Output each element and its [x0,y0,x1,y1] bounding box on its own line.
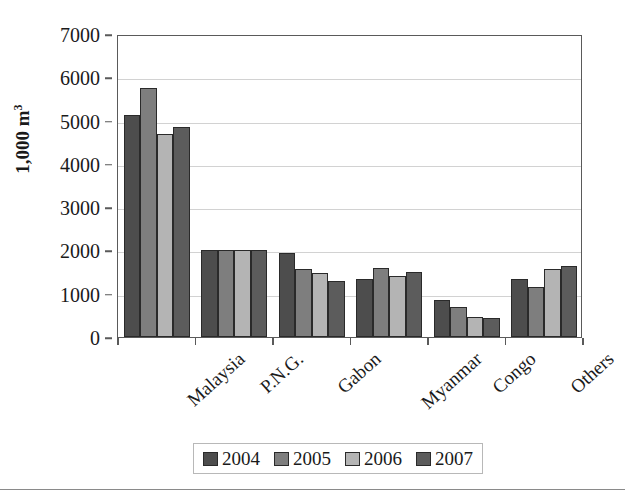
y-tick-mark [105,121,112,123]
bar-congo-2005 [450,307,467,337]
bar-gabon-2007 [328,281,345,337]
x-tick-mark [350,338,352,345]
bar-others-2006 [544,269,561,337]
chart-legend: 2004200520062007 [193,443,483,474]
bar-group-gabon [279,36,345,337]
y-tick-label: 3000 [60,198,100,218]
x-tick-label-gabon: Gabon [333,348,385,398]
bar-others-2005 [528,287,545,337]
bar-chart-figure: 1,000 m3 01000200030004000500060007000 M… [0,0,625,503]
y-tick-mark [105,34,112,36]
legend-label: 2005 [293,449,331,468]
y-tick-mark [105,207,112,209]
bar-others-2004 [511,279,528,337]
bar-malaysia-2004 [124,115,141,337]
y-tick-mark [105,337,112,339]
legend-label: 2004 [222,449,260,468]
bar-myanmar-2007 [406,272,423,337]
bar-png-2005 [218,250,235,337]
bar-gabon-2004 [279,253,296,337]
x-tick-mark [195,338,197,345]
bar-congo-2004 [434,300,451,337]
legend-swatch-icon [345,452,360,466]
bar-others-2007 [561,266,578,337]
legend-item-2004[interactable]: 2004 [203,449,260,468]
bar-group-others [511,36,577,337]
legend-label: 2007 [435,449,473,468]
bar-myanmar-2004 [356,279,373,337]
bar-group-myanmar [356,36,422,337]
y-tick-label: 7000 [60,25,100,45]
bar-malaysia-2006 [157,134,174,337]
bar-malaysia-2005 [140,88,157,337]
x-tick-mark [582,338,584,345]
y-tick-mark [105,251,112,253]
y-tick-mark [105,78,112,80]
bar-gabon-2006 [312,273,329,337]
legend-label: 2006 [364,449,402,468]
bar-myanmar-2006 [389,276,406,337]
x-tick-label-png: P.N.G. [255,348,307,398]
x-axis-ticklabels: MalaysiaP.N.G.GabonMyanmarCongoOthers [117,346,582,431]
legend-item-2005[interactable]: 2005 [274,449,331,468]
y-tick-label: 0 [90,328,100,348]
bar-png-2007 [251,250,268,337]
y-tick-label: 1000 [60,285,100,305]
legend-swatch-icon [203,452,218,466]
x-tick-label-others: Others [566,348,618,398]
y-axis: 01000200030004000500060007000 [0,35,112,338]
y-tick-label: 6000 [60,68,100,88]
legend-swatch-icon [274,452,289,466]
legend-swatch-icon [416,452,431,466]
bar-group-png [201,36,267,337]
y-tick-label: 4000 [60,155,100,175]
bar-png-2004 [201,250,218,337]
bar-gabon-2005 [295,269,312,337]
bar-group-congo [434,36,500,337]
x-axis-tickmarks [117,338,582,346]
bar-malaysia-2007 [173,127,190,337]
x-tick-mark [505,338,507,345]
bar-png-2006 [234,250,251,337]
page-divider-rule [0,489,625,490]
x-tick-label-malaysia: Malaysia [183,348,249,411]
plot-area [117,35,582,338]
x-tick-mark [427,338,429,345]
x-tick-label-congo: Congo [488,348,540,398]
bar-myanmar-2005 [373,268,390,337]
bar-congo-2006 [467,317,484,337]
legend-item-2007[interactable]: 2007 [416,449,473,468]
bar-group-malaysia [124,36,190,337]
y-tick-label: 2000 [60,241,100,261]
y-tick-mark [105,164,112,166]
legend-item-2006[interactable]: 2006 [345,449,402,468]
y-tick-label: 5000 [60,112,100,132]
bar-congo-2007 [483,318,500,337]
y-tick-mark [105,294,112,296]
x-tick-mark [117,338,119,345]
x-tick-mark [272,338,274,345]
x-tick-label-myanmar: Myanmar [417,348,487,414]
